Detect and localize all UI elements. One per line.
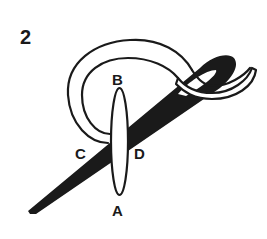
stitch-drawing [0, 0, 267, 239]
stitch-diagram: 2 B C D A [0, 0, 267, 239]
needle [28, 55, 236, 214]
point-label-a: A [112, 203, 123, 218]
point-label-c: C [75, 146, 86, 161]
point-label-d: D [134, 146, 145, 161]
step-number: 2 [20, 27, 31, 47]
point-label-b: B [112, 72, 123, 87]
oval-stitch [111, 88, 128, 195]
